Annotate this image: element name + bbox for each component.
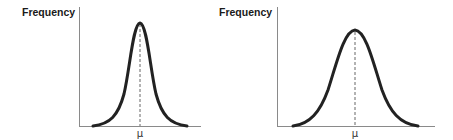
mean-tick-label: μ	[137, 128, 144, 139]
chart-wide-distribution: Frequency μ	[219, 6, 435, 139]
figure: Frequency μ Frequency μ	[0, 0, 453, 140]
mean-tick-label: μ	[352, 128, 359, 139]
y-axis-label: Frequency	[219, 6, 272, 18]
y-axis-label: Frequency	[22, 6, 75, 18]
chart-narrow-distribution: Frequency μ	[22, 6, 201, 139]
